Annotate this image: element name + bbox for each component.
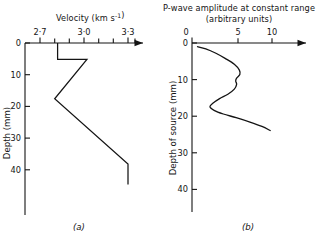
panel-b-xtick-label-2: 10 xyxy=(267,27,277,37)
panel-a-xtick-label-2: 3·3 xyxy=(121,27,134,37)
panel-b-ytick-label-1: 10 xyxy=(178,75,188,85)
panel-b-subfigure-label: (b) xyxy=(242,222,254,232)
panel-a-ytick-label-3: 30 xyxy=(11,133,21,143)
panel-b-ytick-label-3: 30 xyxy=(178,148,188,158)
panel-a-plot: Velocity (km s-1) 2·7 3·0 3·3 xyxy=(0,0,159,243)
panel-b-ytick-label-0: 0 xyxy=(183,38,188,48)
panel-b-xtick-label-1: 5 xyxy=(235,27,240,37)
figure-container: Velocity (km s-1) 2·7 3·0 3·3 xyxy=(0,0,319,243)
panel-a-xtick-label-1: 3·0 xyxy=(77,27,90,37)
panel-a-xtick-label-0: 2·7 xyxy=(33,27,46,37)
panel-a-ytick-label-1: 10 xyxy=(11,70,21,80)
panel-b-ytick-label-2: 20 xyxy=(178,111,188,121)
panel-a-x-axis-arrow-icon xyxy=(135,40,144,46)
panel-b-x-axis-title-line2: (arbitrary units) xyxy=(206,14,272,24)
panel-a-subfigure-label: (a) xyxy=(73,222,85,232)
panel-a-x-axis-title: Velocity (km s-1) xyxy=(56,10,124,23)
panel-a-ytick-label-2: 20 xyxy=(11,101,21,111)
panel-b-x-axis-title-line1: P-wave amplitude at constant range xyxy=(163,3,315,13)
panel-a-y-axis-title: Depth (mm) xyxy=(2,107,12,159)
panel-a: Velocity (km s-1) 2·7 3·0 3·3 xyxy=(0,0,159,243)
panel-a-ytick-label-4: 40 xyxy=(11,165,21,175)
panel-a-velocity-profile-curve xyxy=(55,43,128,184)
panel-b-y-axis-title: Depth of source (mm) xyxy=(168,81,178,176)
panel-b-plot: P-wave amplitude at constant range (arbi… xyxy=(160,0,319,243)
panel-b-x-axis-arrow-icon xyxy=(298,40,307,46)
panel-b-xtick-label-0: 0 xyxy=(183,27,188,37)
panel-b-ytick-label-4: 40 xyxy=(178,184,188,194)
panel-b: P-wave amplitude at constant range (arbi… xyxy=(160,0,319,243)
panel-b-amplitude-curve xyxy=(198,47,271,131)
panel-a-ytick-label-0: 0 xyxy=(16,38,21,48)
